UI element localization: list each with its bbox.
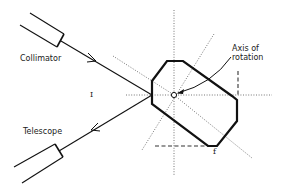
collimator-tube [20,13,64,47]
incident-beam [61,41,152,95]
incidence-label: I [90,90,93,99]
construction-lines [113,10,272,175]
axis-of-rotation-marker [171,92,176,97]
collimator-label: Collimator [20,54,61,63]
telescope-tube [14,144,63,183]
face-label: f [213,147,216,156]
reflected-beam [59,95,152,151]
prism-octagon [152,61,237,146]
axis-of-rotation-label-line1: Axis of [232,44,259,53]
axis-of-rotation-label-line2: rotation [232,53,263,62]
normal-line-upper [113,56,174,95]
goniometer-diagram [0,0,286,189]
telescope-label: Telescope [23,127,62,136]
